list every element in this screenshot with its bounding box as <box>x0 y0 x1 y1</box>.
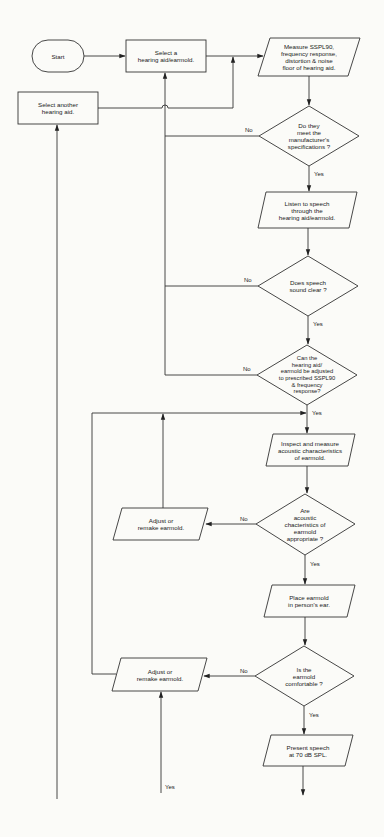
select-another-hearing-aid-node: Select another hearing aid. <box>18 92 98 124</box>
clear-yes-label: Yes <box>313 321 323 328</box>
adjust-earmold-node-2: Adjust or remake earmold. <box>116 658 204 691</box>
listen-node: Listen to speech through the hearing aid… <box>262 192 352 228</box>
measure-node: Measure SSPL90, frequency response, dist… <box>262 38 356 76</box>
present-speech-node: Present speech at 70 dB SPL. <box>266 735 350 766</box>
acoustic-no-label: No <box>240 516 248 523</box>
comfort-yes-label: Yes <box>309 712 319 719</box>
specs-decision-node: Do they meet the manufacturer's specific… <box>269 114 349 158</box>
inspect-node: Inspect and measure acoustic characteris… <box>268 434 352 466</box>
comfort-decision-node: Is the earmold comfortable ? <box>264 660 344 692</box>
specs-yes-label: Yes <box>314 171 324 178</box>
place-earmold-node: Place earmold in person's ear. <box>267 585 351 617</box>
clear-no-label: No <box>244 277 252 284</box>
acoustic-yes-label: Yes <box>310 561 320 568</box>
start-node: Start <box>32 40 84 72</box>
flowchart-canvas: Start Select a hearing aid/earmold. Sele… <box>0 0 384 837</box>
comfort-no-label: No <box>240 668 248 675</box>
clear-decision-node: Does speech sound clear ? <box>268 272 348 300</box>
adjust-decision-node: Can the hearing aid/ earmold be adjusted… <box>262 350 352 400</box>
specs-no-label: No <box>245 127 253 134</box>
adjust-no-label: No <box>243 366 251 373</box>
acoustic-decision-node: Are acoustic chacteristics of earmold ap… <box>262 500 348 548</box>
select-hearing-aid-node: Select a hearing aid/earmold. <box>126 40 206 72</box>
bottom-yes-label: Yes <box>165 784 175 791</box>
adjust-yes-label: Yes <box>312 410 322 417</box>
adjust-earmold-node-1: Adjust or remake earmold. <box>117 508 205 540</box>
